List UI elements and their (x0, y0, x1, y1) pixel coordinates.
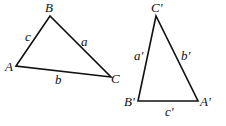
side-label-c-prime: c' (165, 104, 174, 119)
vertex-label-c-prime: C' (151, 0, 163, 15)
side-label-b: b (55, 72, 62, 87)
vertex-label-b-prime: B' (124, 94, 135, 109)
vertex-label-a: A (4, 59, 13, 74)
triangle-abc: A B C a b c (4, 0, 120, 87)
side-label-a: a (81, 34, 88, 49)
triangle-abc-outline (16, 16, 111, 77)
vertex-label-c: C (111, 71, 120, 86)
vertex-label-a-prime: A' (199, 94, 211, 109)
side-label-b-prime: b' (181, 48, 191, 63)
side-label-c: c (25, 29, 31, 44)
triangle-abc-prime: C' B' A' a' b' c' (124, 0, 211, 119)
vertex-label-b: B (45, 0, 53, 15)
diagram-canvas: A B C a b c C' B' A' a' b' c' (0, 0, 226, 126)
side-label-a-prime: a' (134, 48, 144, 63)
